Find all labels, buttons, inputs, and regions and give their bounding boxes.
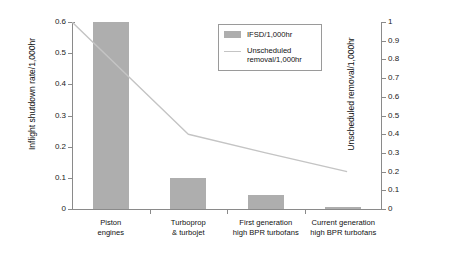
y-axis-left-title: Inflight shutdown rate/1,000hr [26,0,38,188]
y-axis-left-tick-label: 0.4 [40,80,66,88]
y-axis-left-tick-label: 0.5 [40,49,66,57]
y-axis-right-tick-label: 0.4 [388,130,399,138]
y-axis-right-tick-label: 0.9 [388,37,399,45]
y-axis-right-tick-label: 1 [388,18,392,26]
y-axis-right-tick-label: 0.2 [388,168,399,176]
x-axis-category-label-line: Piston [100,218,121,227]
legend: IFSD/1,000hr Unscheduled removal/1,000hr [218,24,322,71]
y-axis-right-tick-label: 0.8 [388,55,399,63]
legend-label-ifsd: IFSD/1,000hr [247,30,292,40]
legend-label-unscheduled-removal: Unscheduled removal/1,000hr [247,46,302,65]
x-axis-category-label-line: First generation [239,218,292,227]
y-axis-right-tick-label: 0.7 [388,74,399,82]
y-axis-right-tick-label: 0 [388,205,392,213]
x-axis-category-label: Pistonengines [97,218,124,237]
x-axis-category-label: Turboprop& turbojet [171,218,206,237]
legend-line-swatch-icon [224,47,241,54]
y-axis-left-title-text: Inflight shutdown rate/1,000hr [27,38,37,150]
y-axis-right-tick-label: 0.3 [388,149,399,157]
legend-label-line2: removal/1,000hr [247,55,302,64]
x-axis-tick [227,210,228,214]
x-axis-category-label-line: engines [97,228,124,237]
y-axis-left-tick-label: 0 [40,205,66,213]
y-axis-left-tick-label: 0.1 [40,174,66,182]
y-axis-right-tick-label: 0.6 [388,93,399,101]
legend-item-ifsd: IFSD/1,000hr [224,30,316,40]
x-axis-category-label: First generationhigh BPR turbofans [233,218,299,237]
legend-bar-swatch-icon [224,31,241,38]
x-axis-tick [150,210,151,214]
x-axis-tick [305,210,306,214]
x-axis-category-label-line: high BPR turbofans [233,228,299,237]
y-axis-right-tick-label: 0.5 [388,112,399,120]
x-axis-category-label-line: high BPR turbofans [310,228,376,237]
y-axis-left-tick-label: 0.6 [40,18,66,26]
legend-label-line1: Unscheduled [247,46,291,55]
y-axis-left-tick-label: 0.3 [40,112,66,120]
x-axis-category-label: Current generationhigh BPR turbofans [310,218,376,237]
x-axis-category-label-line: & turbojet [172,228,205,237]
chart-figure: Inflight shutdown rate/1,000hr Unschedul… [0,0,457,258]
y-axis-right-tick-label: 0.1 [388,186,399,194]
y-axis-left-tick-label: 0.2 [40,143,66,151]
legend-item-unscheduled-removal: Unscheduled removal/1,000hr [224,46,316,65]
x-axis-category-label-line: Turboprop [171,218,206,227]
x-axis-category-label-line: Current generation [312,218,375,227]
